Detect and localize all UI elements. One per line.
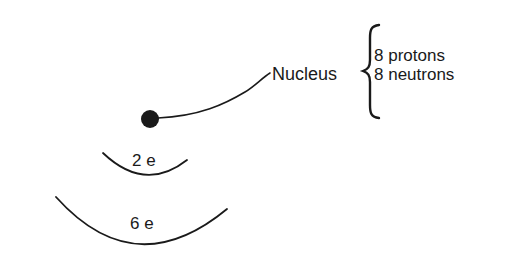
composition-protons: 8 protons [374, 46, 445, 65]
shell-label-outer: 6 e [130, 214, 154, 233]
nucleus-leader-line [158, 73, 270, 118]
atom-diagram: Nucleus 8 protons 8 neutrons 2 e 6 e [0, 0, 507, 265]
shell-label-inner: 2 e [132, 151, 156, 170]
nucleus-label: Nucleus [272, 64, 337, 84]
nucleus-dot [141, 110, 159, 128]
composition-neutrons: 8 neutrons [374, 65, 454, 84]
